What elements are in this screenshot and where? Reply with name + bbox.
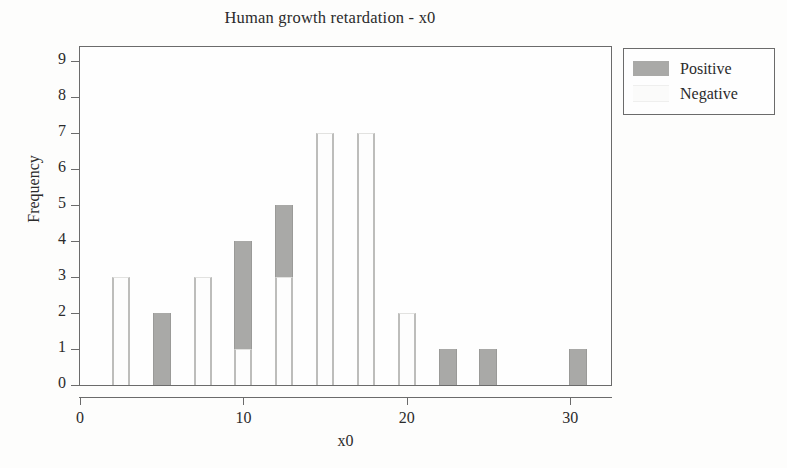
bar-group — [153, 313, 171, 385]
bar-segment-positive — [479, 349, 497, 385]
bar-group — [357, 133, 375, 385]
bar-group — [479, 349, 497, 385]
legend-label: Negative — [680, 86, 738, 102]
bar-segment-negative — [398, 313, 416, 385]
bar-segment-negative — [316, 133, 334, 385]
y-tick-mark — [71, 205, 79, 206]
bar-group — [439, 349, 457, 385]
y-tick-mark — [71, 133, 79, 134]
bar-segment-positive — [439, 349, 457, 385]
bar-segment-negative — [275, 277, 293, 385]
legend-item[interactable]: Positive — [633, 56, 765, 81]
bar-segment-negative — [194, 277, 212, 385]
y-tick-label: 1 — [26, 338, 66, 356]
x-tick-label: 20 — [382, 409, 432, 427]
chart-screenshot: Human growth retardation - x0 0123456789… — [0, 0, 787, 468]
bar-segment-negative — [234, 349, 252, 385]
x-tick-mark — [407, 397, 408, 405]
bar-group — [316, 133, 334, 385]
legend-label: Positive — [680, 61, 732, 77]
bar-group — [569, 349, 587, 385]
chart-legend: PositiveNegative — [623, 48, 775, 115]
bar-segment-negative — [112, 277, 130, 385]
y-tick-mark — [71, 169, 79, 170]
y-tick-mark — [71, 313, 79, 314]
bar-group — [275, 205, 293, 385]
x-tick-mark — [243, 397, 244, 405]
y-tick-mark — [71, 349, 79, 350]
bar-group — [234, 241, 252, 385]
bar-segment-negative — [357, 133, 375, 385]
y-tick-mark — [71, 241, 79, 242]
x-axis-title: x0 — [79, 432, 612, 450]
y-tick-mark — [71, 277, 79, 278]
x-tick-mark — [570, 397, 571, 405]
x-tick-label: 10 — [218, 409, 268, 427]
bar-group — [398, 313, 416, 385]
y-axis-title: Frequency — [25, 89, 43, 289]
x-tick-label: 30 — [545, 409, 595, 427]
y-tick-label: 2 — [26, 302, 66, 320]
y-tick-mark — [71, 61, 79, 62]
x-axis-line — [79, 397, 612, 398]
bar-group — [194, 277, 212, 385]
legend-item[interactable]: Negative — [633, 81, 765, 106]
x-tick-label: 0 — [55, 409, 105, 427]
positive-swatch — [633, 61, 669, 76]
bar-segment-positive — [153, 313, 171, 385]
plot-area — [80, 47, 611, 385]
x-tick-mark — [80, 397, 81, 405]
bar-segment-positive — [569, 349, 587, 385]
y-tick-mark — [71, 97, 79, 98]
y-tick-mark — [71, 385, 79, 386]
y-tick-label: 0 — [26, 374, 66, 392]
bar-group — [112, 277, 130, 385]
y-tick-label: 9 — [26, 50, 66, 68]
negative-swatch — [633, 85, 669, 102]
chart-title: Human growth retardation - x0 — [90, 8, 570, 28]
